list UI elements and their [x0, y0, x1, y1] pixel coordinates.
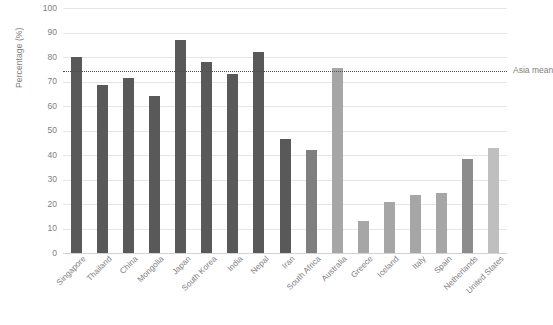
asia-mean-line [63, 71, 507, 72]
bar [227, 74, 238, 253]
asia-mean-label: Asia mean [513, 66, 553, 75]
bar [97, 85, 108, 253]
y-tick-label: 50 [17, 126, 57, 135]
y-tick-label: 20 [17, 200, 57, 209]
bars-layer [63, 8, 507, 253]
bar [123, 78, 134, 253]
y-tick-label: 90 [17, 28, 57, 37]
y-tick-label: 100 [17, 4, 57, 13]
y-tick-label: 0 [17, 249, 57, 258]
bar [488, 148, 499, 253]
plot-area: 0102030405060708090100 Asia mean [63, 8, 507, 253]
y-tick-label: 30 [17, 175, 57, 184]
y-axis-title: Percentage (%) [14, 0, 24, 88]
bar [201, 62, 212, 253]
y-tick-label: 70 [17, 77, 57, 86]
x-axis-line [63, 253, 507, 254]
bar [410, 195, 421, 253]
x-axis-labels: SingaporeThailandChinaMongoliaJapanSouth… [63, 255, 507, 325]
bar [332, 68, 343, 253]
bar [358, 221, 369, 253]
bar [384, 202, 395, 253]
bar [280, 139, 291, 253]
bar [253, 52, 264, 253]
y-tick-label: 80 [17, 53, 57, 62]
y-tick-label: 10 [17, 224, 57, 233]
bar [71, 57, 82, 253]
bar [149, 96, 160, 253]
bar [306, 150, 317, 253]
bar [436, 193, 447, 253]
y-tick-label: 40 [17, 151, 57, 160]
bar [462, 159, 473, 253]
y-tick-label: 60 [17, 102, 57, 111]
